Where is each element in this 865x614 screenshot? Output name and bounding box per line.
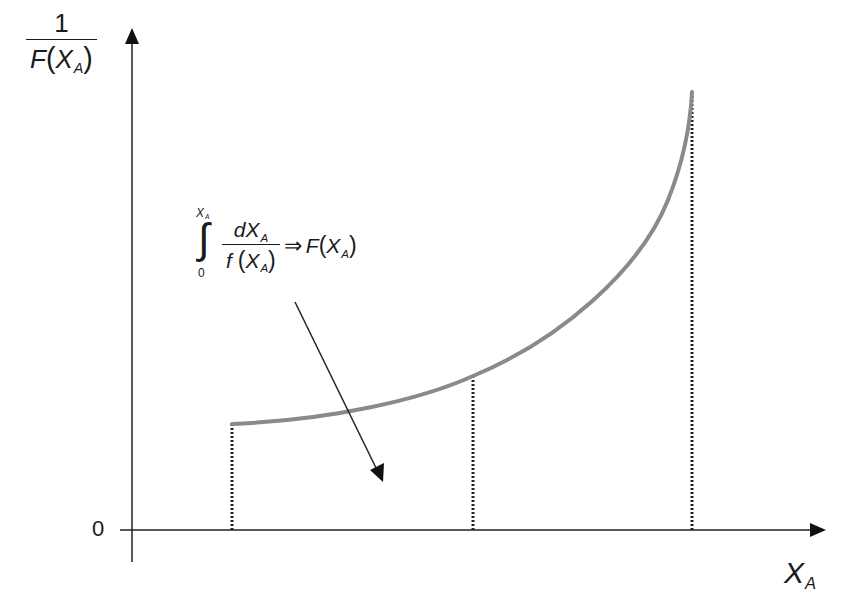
- result-expression: F(XA): [306, 232, 357, 259]
- integral-annotation: XA ∫ 0 dXA f (XA) ⇒ F(XA): [196, 214, 357, 278]
- x-axis-arrowhead-icon: [810, 523, 826, 537]
- x-axis-label: XA: [784, 556, 816, 593]
- y-axis-label: 1 F(XA): [26, 8, 97, 76]
- implies-symbol: ⇒: [284, 233, 302, 259]
- integral-lower-limit: 0: [198, 266, 205, 280]
- integrand-denominator: f (XA): [222, 244, 280, 274]
- diagram-canvas: [0, 0, 865, 614]
- annotation-pointer-arrow: [295, 302, 378, 472]
- y-axis-arrowhead-icon: [125, 28, 139, 44]
- origin-label: 0: [92, 516, 104, 542]
- y-label-numerator: 1: [50, 8, 72, 39]
- annotation-pointer-arrowhead-icon: [370, 463, 384, 482]
- integral-symbol: XA ∫ 0: [196, 214, 218, 278]
- integrand-numerator: dXA: [230, 218, 272, 243]
- integrand-fraction: dXA f (XA): [222, 218, 280, 273]
- y-label-denominator: F(XA): [26, 39, 97, 76]
